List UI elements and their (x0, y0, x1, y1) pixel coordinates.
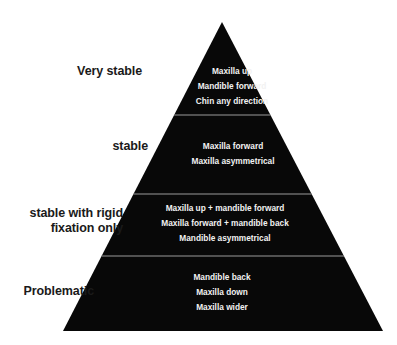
tier-item: Maxilla asymmetrical (163, 154, 303, 169)
tier-items-very-stable: Maxilla up Mandible forward Chin any dir… (162, 64, 302, 109)
tier-item: Maxilla up (162, 64, 302, 79)
tier-label-very-stable: Very stable (0, 64, 142, 78)
tier-items-problematic: Mandible back Maxilla down Maxilla wider (132, 270, 312, 315)
tier-item: Mandible forward (162, 79, 302, 94)
tier-item: Mandible back (132, 270, 312, 285)
tier-items-stable-with-rigid-fixation-only: Maxilla up + mandible forward Maxilla fo… (125, 201, 325, 246)
tier-item: Maxilla forward + mandible back (125, 216, 325, 231)
tier-label-stable: stable (0, 139, 148, 153)
tier-item: Mandible asymmetrical (125, 231, 325, 246)
tier-items-stable: Maxilla forward Maxilla asymmetrical (163, 139, 303, 169)
tier-item: Maxilla down (132, 285, 312, 300)
pyramid-diagram: Very stable Maxilla up Mandible forward … (0, 0, 397, 345)
tier-item: Maxilla up + mandible forward (125, 201, 325, 216)
tier-item: Maxilla forward (163, 139, 303, 154)
tier-item: Chin any direction (162, 94, 302, 109)
tier-label-problematic: Problematic (0, 284, 94, 298)
tier-item: Maxilla wider (132, 300, 312, 315)
tier-label-stable-with-rigid-fixation-only: stable with rigid fixation only (0, 206, 123, 236)
